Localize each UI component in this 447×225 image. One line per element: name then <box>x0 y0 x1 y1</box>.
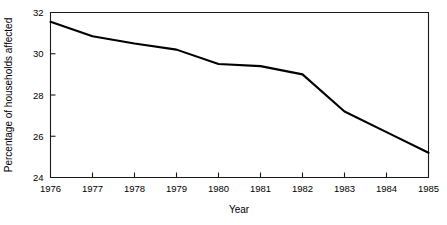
y-axis-tick-labels: 2426283032 <box>33 7 44 183</box>
x-tick-label: 1980 <box>208 183 229 194</box>
x-axis-ticks <box>93 173 387 178</box>
y-tick-label: 26 <box>33 131 44 142</box>
y-axis-title: Percentage of households affected <box>3 18 14 172</box>
x-tick-label: 1985 <box>418 183 439 194</box>
x-tick-label: 1984 <box>376 183 397 194</box>
y-axis-ticks <box>51 54 56 137</box>
x-tick-label: 1979 <box>166 183 187 194</box>
x-tick-label: 1976 <box>40 183 61 194</box>
x-tick-label: 1983 <box>334 183 355 194</box>
plot-frame <box>51 13 429 178</box>
x-axis-title: Year <box>229 204 250 215</box>
x-tick-label: 1981 <box>250 183 271 194</box>
x-tick-label: 1978 <box>124 183 145 194</box>
y-tick-label: 28 <box>33 90 44 101</box>
y-tick-label: 30 <box>33 48 44 59</box>
x-tick-label: 1977 <box>82 183 103 194</box>
chart-canvas: 2426283032 19761977197819791980198119821… <box>0 0 447 225</box>
y-tick-label: 24 <box>33 172 44 183</box>
x-axis-tick-labels: 1976197719781979198019811982198319841985 <box>40 183 439 194</box>
plot-frame-border <box>51 13 429 178</box>
data-series-group <box>51 22 429 153</box>
line-chart: 2426283032 19761977197819791980198119821… <box>0 0 447 225</box>
data-line-households-affected <box>51 22 429 153</box>
x-tick-label: 1982 <box>292 183 313 194</box>
y-tick-label: 32 <box>33 7 44 18</box>
